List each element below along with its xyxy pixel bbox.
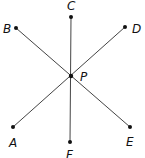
point-e <box>128 125 132 129</box>
label-c: C <box>67 0 76 13</box>
label-e: E <box>126 135 134 149</box>
label-b: B <box>3 22 11 36</box>
label-d: D <box>132 22 141 36</box>
point-c <box>69 15 73 19</box>
point-d <box>123 25 127 29</box>
label-f: F <box>66 148 74 158</box>
segment-be <box>16 28 130 127</box>
geometry-diagram: A B C D E F P <box>0 0 145 158</box>
label-a: A <box>8 136 17 150</box>
point-a <box>11 125 15 129</box>
segment-cf <box>70 17 71 142</box>
point-b <box>14 26 18 30</box>
segment-ad <box>13 27 125 127</box>
point-f <box>68 140 72 144</box>
point-p <box>69 74 73 78</box>
label-p: P <box>80 70 88 84</box>
